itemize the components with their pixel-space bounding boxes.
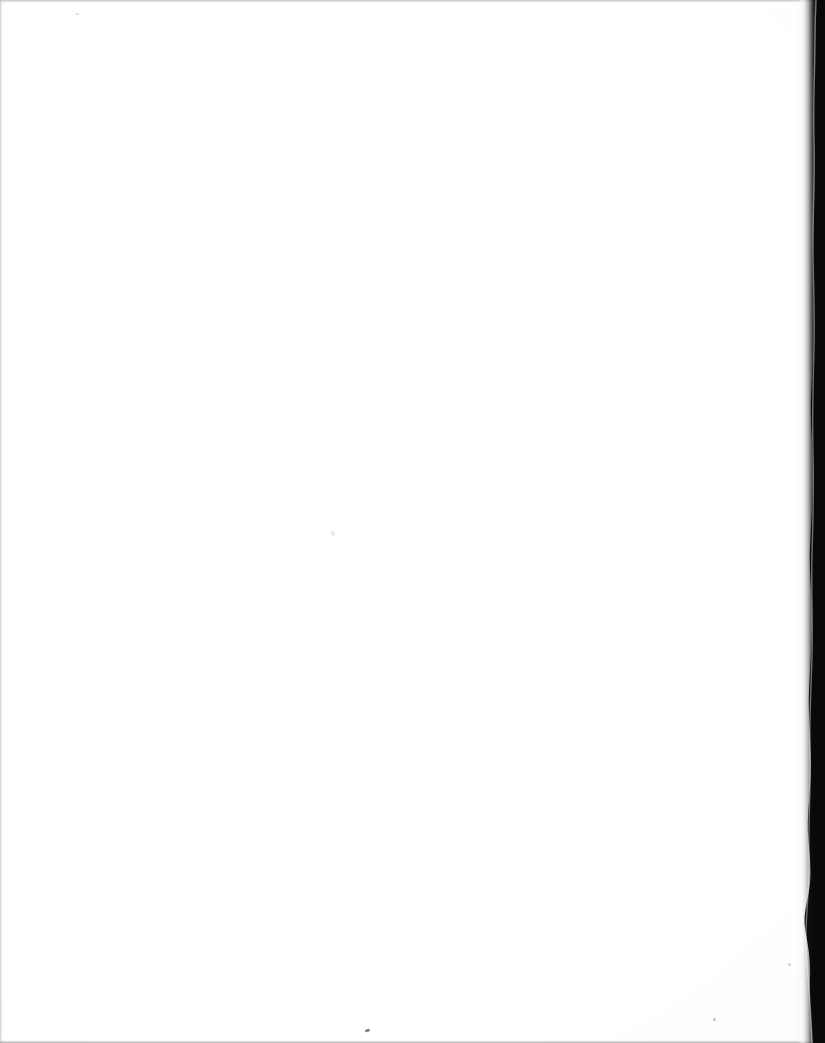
binding-gutter-shadow [795,0,825,1043]
top-edge-line [0,0,825,3]
left-edge-line [0,0,3,1043]
paper-surface [0,0,825,1043]
scanned-page [0,0,825,1043]
